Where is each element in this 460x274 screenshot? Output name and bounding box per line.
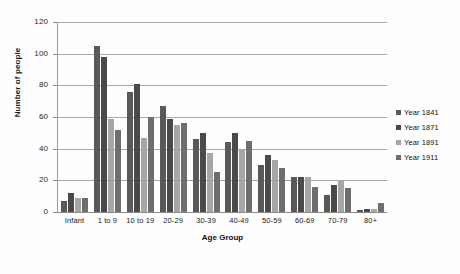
legend-swatch-icon	[396, 125, 401, 130]
y-tick-mark	[53, 22, 57, 23]
y-tick-mark	[53, 180, 57, 181]
bar-group	[124, 22, 157, 212]
x-axis-line	[57, 212, 387, 213]
bar	[378, 203, 384, 213]
bar	[207, 153, 213, 212]
bar-group	[223, 22, 256, 212]
bar	[371, 209, 377, 212]
y-tick-label: 100	[14, 49, 48, 58]
bar	[127, 92, 133, 212]
chart-legend: Year 1841Year 1871Year 1891Year 1911	[396, 105, 439, 165]
x-tick-label: 1 to 9	[91, 216, 124, 225]
bar	[134, 84, 140, 212]
bar	[357, 210, 363, 212]
y-tick-label: 20	[14, 175, 48, 184]
bar	[82, 198, 88, 212]
bar	[265, 155, 271, 212]
x-tick-label: 50-59	[255, 216, 288, 225]
bar	[61, 201, 67, 212]
bar	[279, 168, 285, 212]
y-tick-label: 120	[14, 17, 48, 26]
y-tick-mark	[53, 212, 57, 213]
legend-item: Year 1871	[396, 120, 439, 135]
bar	[108, 119, 114, 212]
bar	[181, 123, 187, 212]
bar-group	[321, 22, 354, 212]
x-tick-label: 20-29	[157, 216, 190, 225]
legend-label: Year 1891	[404, 138, 439, 147]
legend-label: Year 1871	[404, 123, 439, 132]
bar	[272, 160, 278, 212]
bar	[101, 57, 107, 212]
bar	[193, 139, 199, 212]
bar	[305, 177, 311, 212]
x-tick-label: 70-79	[321, 216, 354, 225]
y-tick-mark	[53, 149, 57, 150]
y-tick-mark	[53, 117, 57, 118]
bar	[174, 125, 180, 212]
bar-chart: Number of people 020406080100120 Infant1…	[0, 0, 460, 274]
x-tick-label: 80+	[354, 216, 387, 225]
y-tick-mark	[53, 54, 57, 55]
bar	[200, 133, 206, 212]
bar	[148, 117, 154, 212]
bar-group	[255, 22, 288, 212]
bar	[364, 209, 370, 212]
bar-group	[288, 22, 321, 212]
bar	[141, 138, 147, 212]
bar-group	[58, 22, 91, 212]
bar-group	[157, 22, 190, 212]
bar	[68, 193, 74, 212]
y-tick-mark	[53, 85, 57, 86]
bar	[246, 141, 252, 212]
bar	[225, 142, 231, 212]
legend-item: Year 1841	[396, 105, 439, 120]
bar-group	[190, 22, 223, 212]
legend-item: Year 1891	[396, 135, 439, 150]
bar	[167, 119, 173, 212]
y-tick-label: 80	[14, 80, 48, 89]
bar-group	[91, 22, 124, 212]
x-tick-label: Infant	[58, 216, 91, 225]
bar-group	[354, 22, 387, 212]
bar	[258, 165, 264, 213]
bar	[338, 180, 344, 212]
bar	[324, 195, 330, 212]
y-tick-label: 0	[14, 207, 48, 216]
bar	[331, 185, 337, 212]
legend-swatch-icon	[396, 155, 401, 160]
bar	[160, 106, 166, 212]
x-tick-label: 40-49	[223, 216, 256, 225]
bar	[94, 46, 100, 212]
x-axis-title: Age Group	[58, 233, 387, 242]
bar	[239, 149, 245, 212]
legend-label: Year 1911	[404, 153, 438, 162]
bar	[75, 198, 81, 212]
y-tick-label: 60	[14, 112, 48, 121]
bar	[232, 133, 238, 212]
x-tick-label: 10 to 19	[124, 216, 157, 225]
y-tick-label: 40	[14, 144, 48, 153]
legend-label: Year 1841	[404, 108, 439, 117]
x-tick-label: 60-69	[288, 216, 321, 225]
bar	[291, 177, 297, 212]
bar	[345, 188, 351, 212]
bar	[115, 130, 121, 212]
x-tick-label: 30-39	[190, 216, 223, 225]
legend-swatch-icon	[396, 140, 401, 145]
bar	[214, 172, 220, 212]
legend-item: Year 1911	[396, 150, 439, 165]
legend-swatch-icon	[396, 110, 401, 115]
bar	[312, 187, 318, 212]
bar	[298, 177, 304, 212]
bar-groups	[58, 22, 387, 212]
x-axis-tick-labels: Infant1 to 910 to 1920-2930-3940-4950-59…	[58, 216, 387, 225]
